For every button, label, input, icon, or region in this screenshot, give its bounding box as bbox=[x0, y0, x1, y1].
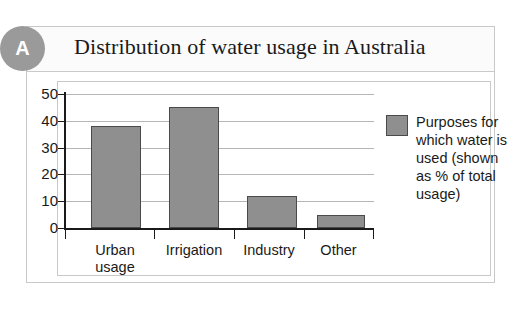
y-axis-label-10: 10 bbox=[28, 192, 58, 209]
y-axis-label-30: 30 bbox=[28, 139, 58, 156]
y-axis-label-20: 20 bbox=[28, 165, 58, 182]
x-axis-label-urban-usage: Urban usage bbox=[74, 242, 156, 276]
y-axis-label-40: 40 bbox=[28, 112, 58, 129]
page-title: Distribution of water usage in Australia bbox=[74, 34, 426, 60]
x-axis-label-irrigation: Irrigation bbox=[154, 242, 234, 259]
panel-badge-a: A bbox=[0, 26, 45, 71]
x-axis-line bbox=[64, 228, 374, 230]
y-axis-line bbox=[64, 92, 66, 230]
y-axis-label-50: 50 bbox=[28, 85, 58, 102]
x-axis-label-urban-usage-line1: Urban bbox=[74, 242, 156, 259]
plot-area: 50 40 30 20 10 0 Urban usage Irrigation … bbox=[64, 94, 374, 228]
scan-top-edge bbox=[0, 0, 513, 16]
gridline-40 bbox=[64, 121, 374, 122]
legend-swatch-purposes bbox=[386, 115, 408, 136]
x-axis-label-industry: Industry bbox=[234, 242, 304, 259]
legend-label-line5: usage) bbox=[416, 185, 512, 203]
x-axis-label-urban-usage-line2: usage bbox=[74, 259, 156, 276]
legend-label-purposes: Purposes for which water is used (shown … bbox=[416, 113, 512, 203]
legend-label-line1: Purposes for bbox=[416, 113, 512, 131]
y-tick-50 bbox=[58, 94, 65, 95]
bar-industry bbox=[247, 196, 297, 228]
x-axis-label-other: Other bbox=[304, 242, 373, 259]
x-tick-3 bbox=[304, 230, 305, 239]
gridline-50 bbox=[64, 94, 374, 95]
legend-label-line4: as % of total bbox=[416, 167, 512, 185]
bar-irrigation bbox=[169, 107, 219, 228]
y-tick-20 bbox=[58, 174, 65, 175]
y-tick-10 bbox=[58, 201, 65, 202]
y-axis-label-0: 0 bbox=[28, 219, 58, 236]
card-header: Distribution of water usage in Australia bbox=[27, 27, 494, 72]
bar-urban-usage bbox=[91, 126, 141, 228]
x-tick-2 bbox=[234, 230, 235, 239]
y-tick-0 bbox=[58, 228, 65, 229]
bar-other bbox=[317, 215, 365, 228]
x-tick-4 bbox=[373, 230, 374, 239]
y-tick-40 bbox=[58, 121, 65, 122]
panel-badge-letter: A bbox=[0, 26, 45, 71]
x-tick-0 bbox=[65, 230, 66, 239]
legend-label-line3: used (shown bbox=[416, 149, 512, 167]
chart-card: Distribution of water usage in Australia bbox=[26, 26, 495, 283]
chart-frame: 50 40 30 20 10 0 Urban usage Irrigation … bbox=[57, 81, 491, 276]
legend-label-line2: which water is bbox=[416, 131, 512, 149]
x-tick-1 bbox=[154, 230, 155, 239]
y-tick-30 bbox=[58, 148, 65, 149]
